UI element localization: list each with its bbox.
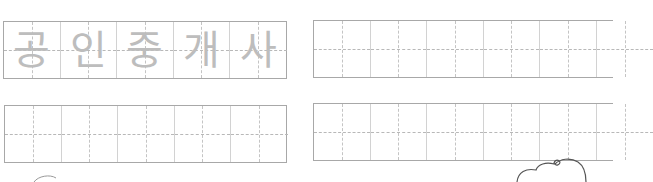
writing-box-row1-right [313, 20, 613, 78]
trace-character [62, 106, 118, 162]
trace-character [5, 106, 61, 162]
writing-cell[interactable] [427, 104, 484, 160]
trace-character [314, 21, 370, 77]
writing-cell[interactable] [540, 104, 597, 160]
trace-character [371, 21, 427, 77]
writing-cell[interactable] [314, 21, 371, 77]
trace-character [427, 21, 483, 77]
trace-character [175, 106, 231, 162]
trace-character: 인 [61, 22, 117, 78]
writing-cell[interactable]: 공 [4, 22, 61, 78]
writing-cell[interactable] [118, 106, 175, 162]
trace-character: 사 [230, 22, 287, 78]
writing-cell[interactable]: 중 [117, 22, 174, 78]
writing-cell[interactable] [231, 106, 288, 162]
trace-character [371, 104, 427, 160]
writing-cell[interactable] [597, 104, 653, 160]
writing-cell[interactable] [484, 21, 541, 77]
cloud-icon [500, 158, 594, 182]
writing-cell[interactable]: 인 [61, 22, 118, 78]
writing-cell[interactable] [484, 104, 541, 160]
writing-cell[interactable] [5, 106, 62, 162]
writing-cell[interactable] [427, 21, 484, 77]
arc-decoration-icon [30, 174, 60, 182]
trace-character: 개 [174, 22, 230, 78]
writing-cell[interactable] [371, 104, 428, 160]
writing-cell[interactable] [371, 21, 428, 77]
trace-character: 중 [117, 22, 173, 78]
trace-character [231, 106, 288, 162]
trace-character [540, 104, 596, 160]
writing-cell[interactable] [175, 106, 232, 162]
trace-character [427, 104, 483, 160]
writing-cell[interactable] [597, 21, 653, 77]
writing-cell[interactable] [62, 106, 119, 162]
trace-character: 공 [4, 22, 60, 78]
writing-cell[interactable]: 사 [230, 22, 287, 78]
writing-box-row1-left: 공 인 중 개 사 [3, 21, 287, 79]
trace-character [484, 21, 540, 77]
trace-character [484, 104, 540, 160]
writing-cell[interactable]: 개 [174, 22, 231, 78]
writing-cell[interactable] [314, 104, 371, 160]
trace-character [314, 104, 370, 160]
trace-character [540, 21, 596, 77]
writing-box-row2-right [313, 103, 613, 161]
trace-character [118, 106, 174, 162]
writing-cell[interactable] [540, 21, 597, 77]
writing-box-row2-left [4, 105, 287, 163]
